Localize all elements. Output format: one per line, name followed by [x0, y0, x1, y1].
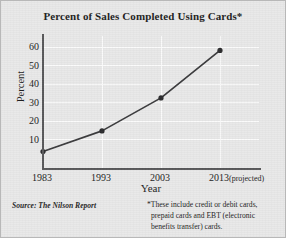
footnote: *These include credit or debit cards, pr…	[147, 200, 281, 232]
x-axis-line	[42, 168, 261, 170]
data-point-marker	[99, 128, 104, 133]
footnote-line: benefits transfer) cards.	[147, 222, 281, 233]
y-axis-line	[42, 34, 44, 170]
source-note: Source: The Nilson Report	[12, 201, 96, 210]
y-axis-label: Percent	[15, 47, 26, 127]
data-point-marker	[158, 95, 163, 100]
chart-figure: Percent of Sales Completed Using Cards* …	[0, 0, 286, 238]
y-tick-label: 10	[15, 134, 39, 145]
footnote-line: *These include credit or debit cards,	[147, 200, 281, 211]
footnote-line: prepaid cards and EBT (electronic	[147, 211, 281, 222]
data-point-marker	[217, 48, 222, 53]
series-line	[43, 50, 220, 151]
series-markers	[40, 48, 222, 154]
plot-area	[43, 36, 259, 168]
x-axis-label: Year	[43, 182, 259, 194]
chart-title: Percent of Sales Completed Using Cards*	[1, 10, 285, 22]
data-series-plot	[43, 36, 259, 168]
